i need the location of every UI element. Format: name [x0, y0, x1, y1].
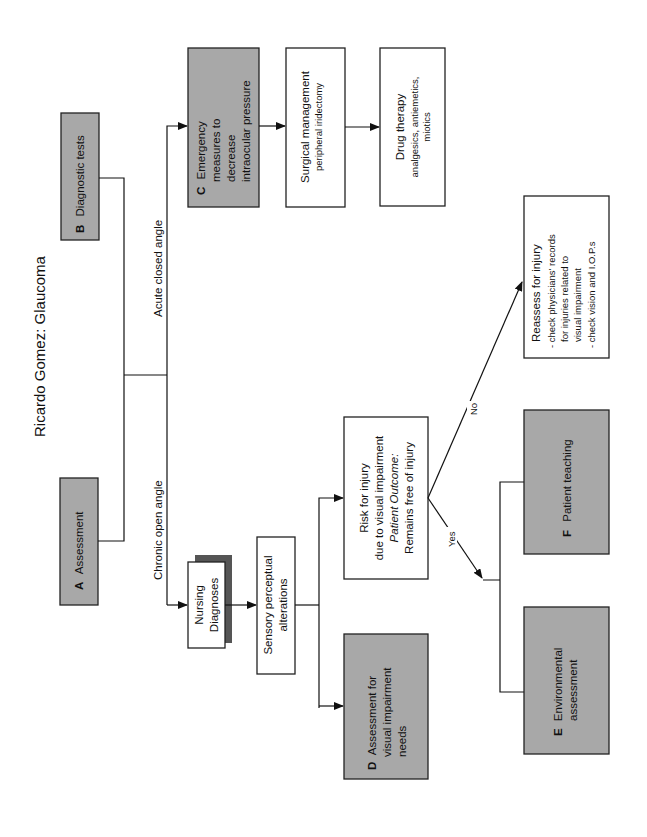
svg-text:C Emergency: C Emergency — [195, 121, 207, 195]
svg-text:peripheral iridectomy: peripheral iridectomy — [313, 83, 324, 171]
branch-yes: Yes — [428, 498, 482, 578]
box-b-diagnostic-tests: B Diagnostic tests — [61, 113, 99, 240]
svg-text:visual impairment: visual impairment — [572, 268, 583, 342]
box-c-letter: C — [195, 187, 207, 195]
svg-text:measures to: measures to — [210, 119, 222, 182]
connector-sensory — [295, 498, 343, 708]
box-e-letter: E — [552, 728, 564, 736]
svg-text:intraocular pressure: intraocular pressure — [240, 80, 252, 182]
connector-ab — [98, 126, 187, 605]
box-b-label: Diagnostic tests — [74, 135, 86, 216]
box-b-letter: B — [74, 225, 86, 233]
box-drug-therapy: Drug therapy analgesics, antiemetics, mi… — [380, 48, 445, 206]
svg-text:F Patient teaching: F Patient teaching — [561, 439, 573, 537]
glaucoma-flowchart: Ricardo Gomez: Glaucoma A Assessment B D… — [0, 0, 647, 837]
box-reassess-for-injury: Reassess for injury - check physicians' … — [524, 196, 609, 358]
box-sensory-perceptual: Sensory perceptual alterations — [257, 537, 295, 674]
svg-text:Reassess for injury: Reassess for injury — [530, 244, 542, 342]
svg-text:Nursing: Nursing — [193, 585, 205, 625]
svg-text:needs: needs — [396, 725, 408, 757]
box-d-assessment-visual-needs: D Assessment for visual impairment needs — [344, 634, 428, 779]
svg-text:Remains free of injury: Remains free of injury — [403, 442, 415, 554]
branch-no: No — [428, 282, 522, 498]
edge-label-chronic: Chronic open angle — [152, 480, 164, 580]
svg-text:- check vision and I.O.P.s: - check vision and I.O.P.s — [586, 241, 597, 348]
svg-text:Surgical management: Surgical management — [299, 70, 311, 183]
svg-text:- check physicians' records: - check physicians' records — [546, 234, 557, 348]
svg-text:miotics: miotics — [421, 112, 432, 142]
svg-text:Diagnoses: Diagnoses — [208, 578, 220, 633]
svg-text:Risk for injury: Risk for injury — [358, 463, 370, 533]
box-f-letter: F — [561, 530, 573, 537]
svg-text:D Assessment for: D Assessment for — [366, 676, 378, 770]
edge-label-acute: Acute closed angle — [152, 220, 164, 317]
svg-text:Patient Outcome:: Patient Outcome: — [388, 454, 400, 543]
box-a-label: Assessment — [73, 511, 85, 574]
diagram-title: Ricardo Gomez: Glaucoma — [31, 255, 48, 437]
edge-label-no: No — [468, 403, 479, 415]
svg-text:analgesics, antiemetics,: analgesics, antiemetics, — [409, 77, 420, 178]
box-surgical-management: Surgical management peripheral iridectom… — [286, 48, 345, 207]
box-risk-for-injury: Risk for injury due to visual impairment… — [344, 417, 428, 579]
connector-yes — [483, 482, 524, 692]
box-d-letter: D — [366, 762, 378, 770]
box-c-emergency-measures: C Emergency measures to decrease intraoc… — [188, 48, 259, 207]
svg-text:visual impairment: visual impairment — [381, 667, 393, 757]
box-a-letter: A — [73, 582, 85, 590]
svg-text:alterations: alterations — [277, 578, 289, 631]
box-nursing-diagnoses: Nursing Diagnoses — [188, 555, 232, 648]
svg-text:assessment: assessment — [567, 659, 579, 721]
svg-text:Sensory perceptual: Sensory perceptual — [262, 555, 274, 654]
svg-text:decrease: decrease — [225, 135, 237, 182]
box-a-assessment: A Assessment — [60, 478, 98, 605]
svg-text:for injuries related to: for injuries related to — [559, 256, 570, 342]
svg-text:Drug therapy: Drug therapy — [394, 94, 406, 161]
svg-text:due to visual impairment: due to visual impairment — [373, 435, 385, 560]
box-e-environmental-assessment: E Environmental assessment — [524, 607, 609, 754]
box-f-patient-teaching: F Patient teaching — [524, 410, 609, 554]
edge-label-yes: Yes — [446, 531, 457, 547]
